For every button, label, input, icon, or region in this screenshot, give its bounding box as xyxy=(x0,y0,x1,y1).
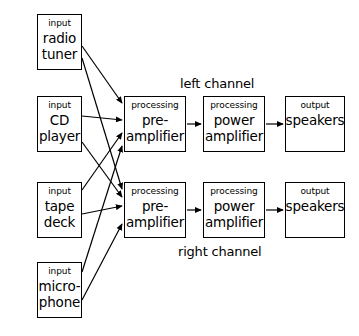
node-title-label: tape deck xyxy=(44,199,75,230)
node-speakers-left[interactable]: output speakers xyxy=(285,96,345,152)
connection-cd-player-to-preamp-left xyxy=(82,116,122,120)
label-right-channel: right channel xyxy=(178,244,262,259)
connection-tape-deck-to-preamp-right xyxy=(82,206,122,214)
node-kind-label: output xyxy=(300,100,329,111)
node-cd-player[interactable]: input CD player xyxy=(37,96,82,152)
audio-system-diagram: input radio tuner input CD player input … xyxy=(0,0,359,336)
node-kind-label: processing xyxy=(210,186,258,197)
node-title-label: pre- amplifier xyxy=(126,113,184,144)
connection-cd-player-to-preamp-right xyxy=(82,142,122,197)
node-kind-label: processing xyxy=(210,100,258,111)
node-kind-label: processing xyxy=(131,186,179,197)
node-title-label: speakers xyxy=(286,199,345,215)
node-tape-deck[interactable]: input tape deck xyxy=(37,182,82,238)
node-title-label: micro- phone xyxy=(39,279,81,310)
node-title-label: speakers xyxy=(286,113,345,129)
node-title-label: power amplifier xyxy=(205,113,263,144)
connection-radio-tuner-to-preamp-left xyxy=(82,46,122,103)
node-title-label: power amplifier xyxy=(205,199,263,230)
node-power-amplifier-right[interactable]: processing power amplifier xyxy=(203,182,265,238)
connection-radio-tuner-to-preamp-right xyxy=(82,58,122,189)
connection-tape-deck-to-preamp-left xyxy=(82,133,122,190)
node-kind-label: processing xyxy=(131,100,179,111)
node-speakers-right[interactable]: output speakers xyxy=(285,182,345,238)
label-left-channel: left channel xyxy=(180,76,254,91)
node-preamplifier-left[interactable]: processing pre- amplifier xyxy=(124,96,186,152)
node-title-label: radio tuner xyxy=(42,31,77,62)
connection-microphone-to-preamp-right xyxy=(82,224,122,300)
node-kind-label: input xyxy=(48,266,71,277)
node-title-label: CD player xyxy=(39,113,80,144)
node-power-amplifier-left[interactable]: processing power amplifier xyxy=(203,96,265,152)
node-kind-label: input xyxy=(48,100,71,111)
connection-microphone-to-preamp-left xyxy=(82,146,122,272)
node-kind-label: input xyxy=(48,18,71,29)
node-preamplifier-right[interactable]: processing pre- amplifier xyxy=(124,182,186,238)
node-microphone[interactable]: input micro- phone xyxy=(37,262,82,318)
node-title-label: pre- amplifier xyxy=(126,199,184,230)
node-kind-label: output xyxy=(300,186,329,197)
node-radio-tuner[interactable]: input radio tuner xyxy=(37,14,82,70)
node-kind-label: input xyxy=(48,186,71,197)
